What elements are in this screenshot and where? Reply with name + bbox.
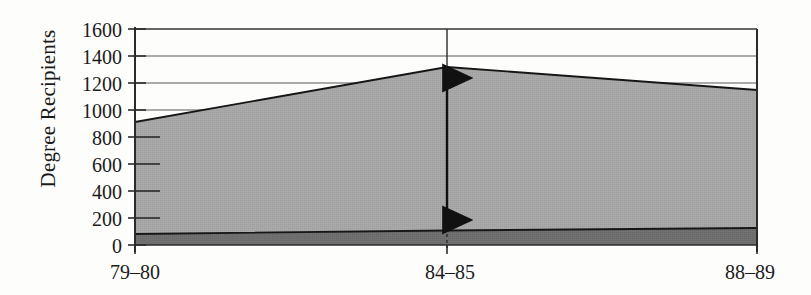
chart-plot-area [0,0,811,295]
chart-figure: Degree Recipients 1600 1400 1200 1000 80… [0,0,811,295]
x-axis-ticks [135,245,757,254]
